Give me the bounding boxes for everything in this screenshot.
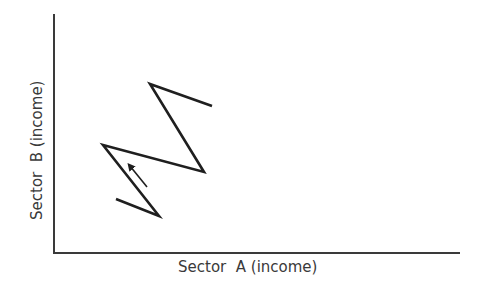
figure: Sector A (income) Sector B (income) — [0, 0, 485, 294]
zigzag-income-path — [103, 84, 212, 216]
y-axis-label: Sector B (income) — [28, 60, 46, 220]
x-axis-label: Sector A (income) — [178, 258, 338, 276]
plot-area — [0, 0, 485, 294]
